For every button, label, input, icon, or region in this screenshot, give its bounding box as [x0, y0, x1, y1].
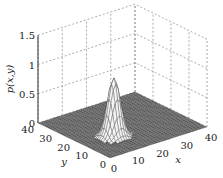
x-tick-label: 40 — [205, 132, 218, 143]
x-tick-label: 10 — [132, 155, 145, 166]
x-tick-label: 20 — [156, 148, 169, 159]
grid-line — [135, 4, 207, 39]
x-axis-label: x — [175, 154, 181, 165]
y-axis-label: y — [60, 156, 67, 167]
z-tick-label: 0.5 — [19, 89, 35, 100]
y-tick-label: 30 — [39, 133, 52, 144]
y-tick-label: 0 — [100, 159, 106, 170]
z-tick-label: 1.5 — [19, 30, 35, 41]
y-tick-label: 40 — [21, 124, 34, 135]
x-tick-label: 30 — [180, 140, 193, 151]
z-axis-label: p(x,y) — [4, 65, 15, 94]
y-tick-label: 20 — [57, 142, 70, 153]
surface-chart: 00.511.5010203040010203040 p(x,y) x y — [0, 0, 223, 178]
z-tick-label: 1 — [29, 60, 35, 71]
grid-line — [135, 34, 207, 69]
y-tick-label: 10 — [75, 150, 88, 161]
x-tick-label: 0 — [111, 163, 117, 174]
